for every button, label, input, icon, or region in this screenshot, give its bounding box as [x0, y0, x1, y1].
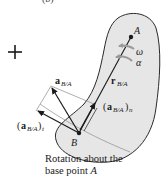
- point-a: [129, 35, 133, 39]
- a-vector-label: a B/A: [55, 75, 72, 88]
- point-a-label: A: [133, 25, 141, 36]
- svg-text:n: n: [129, 106, 133, 114]
- plus-sign-icon: [8, 45, 22, 59]
- svg-text:r: r: [111, 75, 116, 86]
- caption-line-2: base point A: [45, 165, 163, 177]
- svg-text:a: a: [21, 120, 26, 131]
- tangential-component-label: ( a B/A ) t: [17, 120, 45, 133]
- figure-caption: Rotation about the base point A: [45, 153, 163, 177]
- omega-label: ω: [136, 46, 143, 57]
- svg-text:a: a: [55, 75, 60, 86]
- caption-line-1: Rotation about the: [45, 153, 163, 165]
- point-b-label: B: [71, 137, 77, 148]
- rigid-body-acceleration-diagram: (b): [0, 0, 163, 180]
- svg-text:t: t: [42, 125, 45, 133]
- svg-text:a: a: [107, 101, 112, 112]
- panel-label: (b): [42, 0, 54, 4]
- svg-text:B/A: B/A: [117, 80, 128, 88]
- svg-text:B/A: B/A: [27, 125, 38, 133]
- svg-text:B/A: B/A: [61, 80, 72, 88]
- alpha-label: α: [136, 57, 142, 68]
- svg-text:): ): [125, 101, 128, 113]
- svg-text:B/A: B/A: [113, 106, 124, 114]
- svg-text:): ): [38, 120, 41, 132]
